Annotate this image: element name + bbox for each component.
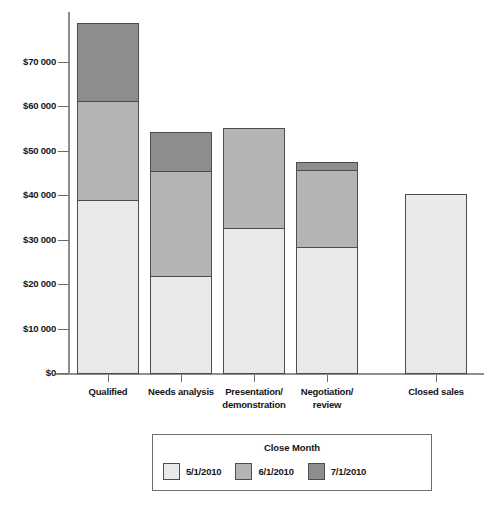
- stacked-column-chart: $0$10 000$20 000$30 000$40 000$50 000$60…: [0, 0, 495, 513]
- bar-segment: [150, 132, 212, 172]
- bar-segment: [150, 171, 212, 277]
- legend-items: 5/1/20106/1/20107/1/2010: [163, 463, 423, 480]
- bar-segment: [77, 23, 139, 102]
- legend-swatch: [163, 463, 180, 480]
- x-axis-tick: [327, 375, 328, 382]
- x-axis-label-line: review: [272, 399, 382, 412]
- bar-segment: [296, 162, 358, 171]
- bar-segment: [405, 194, 467, 374]
- x-axis-label: Negotiation/review: [272, 386, 382, 411]
- x-axis-tick: [436, 375, 437, 382]
- legend-swatch: [308, 463, 325, 480]
- legend-item[interactable]: 7/1/2010: [308, 463, 366, 480]
- legend-item[interactable]: 5/1/2010: [163, 463, 221, 480]
- bar-segment: [296, 247, 358, 374]
- x-axis-tick: [181, 375, 182, 382]
- bar-group: [223, 0, 285, 373]
- bar-group: [77, 0, 139, 373]
- bar-segment: [223, 228, 285, 374]
- legend-title: Close Month: [153, 442, 431, 453]
- legend-swatch: [235, 463, 252, 480]
- legend-label: 6/1/2010: [258, 466, 293, 477]
- bar-segment: [77, 200, 139, 374]
- legend: Close Month 5/1/20106/1/20107/1/2010: [152, 434, 432, 491]
- x-axis-label: Closed sales: [381, 386, 491, 399]
- bar-group: [296, 0, 358, 373]
- bar-segment: [223, 128, 285, 229]
- bar-group: [150, 0, 212, 373]
- x-axis-tick: [108, 375, 109, 382]
- x-axis-label-line: Closed sales: [381, 386, 491, 399]
- bar-segment: [296, 170, 358, 248]
- bar-segment: [77, 101, 139, 201]
- x-axis-label-line: Negotiation/: [272, 386, 382, 399]
- legend-label: 5/1/2010: [186, 466, 221, 477]
- x-axis-tick: [254, 375, 255, 382]
- bar-segment: [150, 276, 212, 374]
- bar-group: [405, 0, 467, 373]
- legend-item[interactable]: 6/1/2010: [235, 463, 293, 480]
- legend-label: 7/1/2010: [331, 466, 366, 477]
